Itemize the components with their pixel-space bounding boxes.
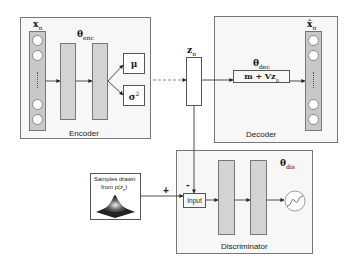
sigmoid-icon — [285, 191, 305, 211]
gaussian-distribution-icon — [96, 195, 135, 218]
vae-gan-diagram: Encoder xn θenc μ σ2 zn Decoder θdec m +… — [0, 0, 353, 268]
connections — [0, 0, 353, 268]
